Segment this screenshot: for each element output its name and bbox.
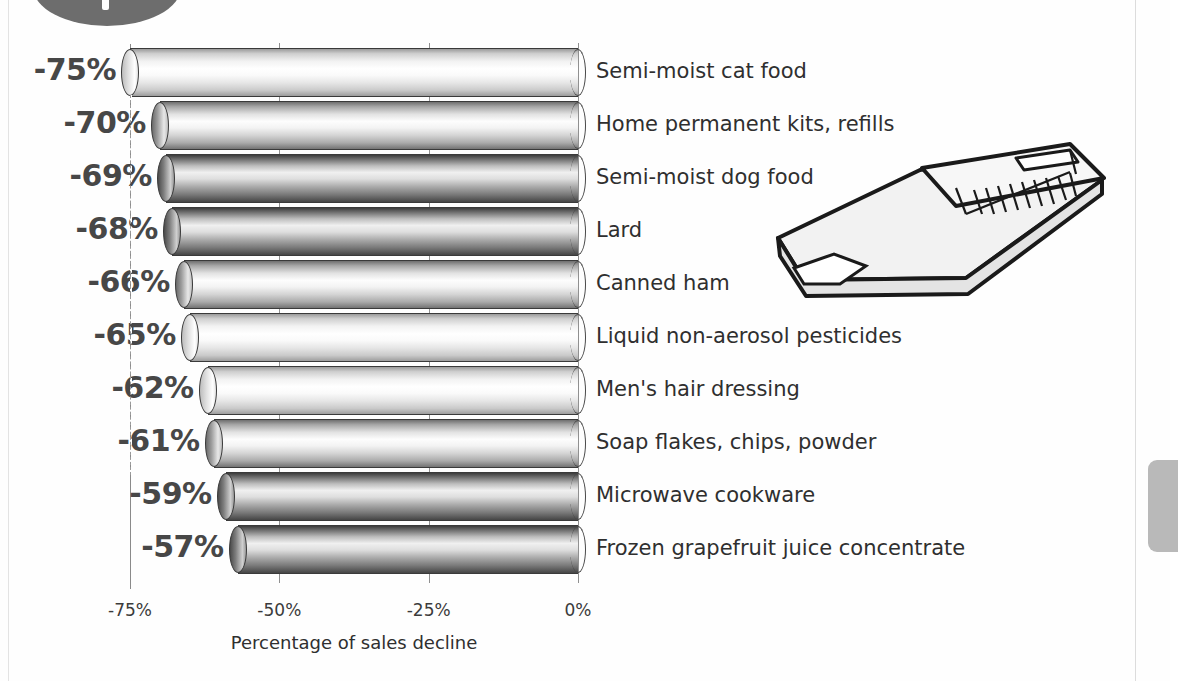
bar-cylinder[interactable] (172, 207, 578, 256)
x-tick-label: -25% (407, 600, 451, 620)
bar-value-label: -62% (111, 370, 193, 405)
bar-cylinder[interactable] (166, 154, 578, 203)
bar-cylinder[interactable] (226, 472, 578, 521)
bar-value-label: -65% (93, 317, 175, 352)
bar-value-label: -70% (64, 105, 146, 140)
value-axis-dashed-overlay (130, 95, 131, 475)
bar-value-label: -69% (70, 158, 152, 193)
category-label: Frozen grapefruit juice concentrate (596, 536, 965, 560)
bar-value-label: -68% (76, 211, 158, 246)
bar-end-cap-icon (229, 526, 247, 573)
bar-row: -57%Frozen grapefruit juice concentrate (0, 525, 1170, 572)
category-label: Liquid non-aerosol pesticides (596, 324, 902, 348)
x-tick-label: 0% (565, 600, 592, 620)
bar-right-edge (570, 155, 586, 202)
bar-right-edge (570, 102, 586, 149)
bar-right-edge (570, 49, 586, 96)
bar-cylinder[interactable] (190, 313, 578, 362)
category-label: Lard (596, 218, 642, 242)
bar-value-label: -66% (88, 264, 170, 299)
bar-value-label: -59% (129, 476, 211, 511)
category-label: Soap flakes, chips, powder (596, 430, 876, 454)
bar-end-cap-icon (151, 102, 169, 149)
bar-value-label: -75% (34, 52, 116, 87)
bar-cylinder[interactable] (184, 260, 578, 309)
x-tick-label: -75% (108, 600, 152, 620)
x-tick-label: -50% (257, 600, 301, 620)
category-label: Semi-moist dog food (596, 165, 814, 189)
bar-row: -62%Men's hair dressing (0, 366, 1170, 413)
bar-right-edge (570, 314, 586, 361)
bar-cylinder[interactable] (130, 48, 578, 97)
bar-row: -75%Semi-moist cat food (0, 48, 1170, 95)
bar-right-edge (570, 261, 586, 308)
bar-end-cap-icon (205, 420, 223, 467)
bar-end-cap-icon (199, 367, 217, 414)
bar-row: -69%Semi-moist dog food (0, 154, 1170, 201)
category-label: Men's hair dressing (596, 377, 800, 401)
bar-row: -70%Home permanent kits, refills (0, 101, 1170, 148)
bar-end-cap-icon (163, 208, 181, 255)
bar-end-cap-icon (181, 314, 199, 361)
bar-cylinder[interactable] (238, 525, 578, 574)
bar-row: -66%Canned ham (0, 260, 1170, 307)
bar-end-cap-icon (217, 473, 235, 520)
bar-value-label: -57% (141, 529, 223, 564)
bar-cylinder[interactable] (160, 101, 578, 150)
bar-right-edge (570, 208, 586, 255)
category-label: Semi-moist cat food (596, 59, 807, 83)
bar-row: -61%Soap flakes, chips, powder (0, 419, 1170, 466)
bar-right-edge (570, 526, 586, 573)
category-label: Canned ham (596, 271, 730, 295)
bar-right-edge (570, 420, 586, 467)
bar-end-cap-icon (157, 155, 175, 202)
category-label: Microwave cookware (596, 483, 815, 507)
category-label: Home permanent kits, refills (596, 112, 894, 136)
bar-row: -68%Lard (0, 207, 1170, 254)
x-axis-title: Percentage of sales decline (231, 632, 478, 653)
bar-cylinder[interactable] (208, 366, 578, 415)
bar-row: -59%Microwave cookware (0, 472, 1170, 519)
bar-end-cap-icon (175, 261, 193, 308)
bar-cylinder[interactable] (214, 419, 578, 468)
bar-end-cap-icon (121, 49, 139, 96)
bar-row: -65%Liquid non-aerosol pesticides (0, 313, 1170, 360)
bar-right-edge (570, 473, 586, 520)
bar-right-edge (570, 367, 586, 414)
